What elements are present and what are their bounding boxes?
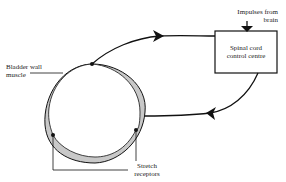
motor-arrow-head — [206, 107, 216, 120]
control-centre-label: Spinal cord control centre — [215, 31, 277, 73]
stretch-label-line2: receptors — [130, 170, 164, 178]
bladder-wall-label-line2: muscle — [6, 71, 42, 79]
stretch-receptors-label: Stretch receptors — [130, 162, 164, 178]
diagram-canvas — [0, 0, 286, 182]
sensory-pathway-line — [92, 36, 215, 64]
impulses-from-brain-label: Impulses from brain — [228, 8, 278, 24]
stretch-label-line1: Stretch — [130, 162, 164, 170]
control-centre-label-line1: Spinal cord — [230, 44, 262, 52]
control-centre-label-line2: control centre — [227, 52, 266, 60]
bladder — [45, 62, 145, 163]
impulses-label-line2: brain — [228, 16, 278, 24]
bladder-wall-label-line1: Bladder wall — [6, 63, 42, 71]
motor-pathway-line — [145, 73, 258, 116]
bladder-wall-label: Bladder wall muscle — [6, 63, 42, 79]
impulses-label-line1: Impulses from — [228, 8, 278, 16]
